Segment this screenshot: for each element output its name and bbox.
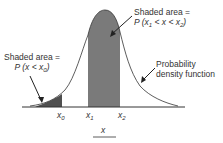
left-area-label-line1: Shaded area = [4, 52, 60, 62]
tick-x1: x1 [86, 110, 94, 123]
curve-label-line2: density function [156, 69, 215, 79]
x-axis-label: x [101, 125, 105, 135]
curve-label-arrow [143, 68, 155, 80]
curve-label-line1: Probability [156, 59, 215, 69]
left-area-arrow [30, 76, 41, 100]
left-area-label: Shaded area = P (x < x0) [4, 52, 60, 75]
left-area-arrowhead [38, 97, 44, 103]
tick-x2: x2 [118, 110, 126, 123]
middle-area-label: Shaded area = P (x1 < x < x2) [134, 7, 190, 30]
curve-label: Probability density function [156, 59, 215, 79]
middle-area-label-formula: P (x1 < x < x2) [134, 17, 190, 30]
left-area-label-formula: P (x < x0) [4, 62, 60, 75]
tick-x0: x0 [57, 110, 65, 123]
middle-shaded-area [88, 10, 120, 107]
middle-area-label-line1: Shaded area = [134, 7, 190, 17]
